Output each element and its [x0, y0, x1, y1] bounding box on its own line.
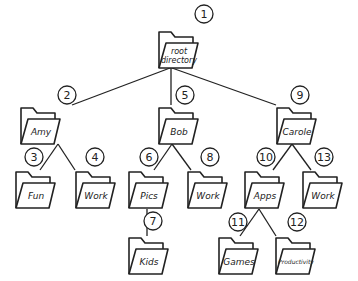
- node-number-badge: 9: [291, 86, 309, 104]
- svg-text:6: 6: [146, 151, 153, 164]
- svg-text:11: 11: [231, 216, 245, 229]
- svg-text:13: 13: [317, 151, 331, 164]
- node-number-badge: 11: [229, 213, 247, 231]
- svg-text:1: 1: [201, 8, 208, 21]
- folder-node[interactable]: Work8: [188, 148, 227, 208]
- tree-edge: [172, 144, 191, 170]
- directory-tree-diagram: rootdirectory1Amy2Fun3Work4Bob5Pics6Kids…: [0, 0, 358, 281]
- folder-node[interactable]: Work13: [303, 148, 342, 208]
- tree-edge: [259, 209, 276, 236]
- folder-label: Amy: [30, 127, 52, 137]
- folder-label: Games: [223, 257, 255, 267]
- svg-text:9: 9: [297, 89, 304, 102]
- node-number-badge: 8: [201, 148, 219, 166]
- svg-text:8: 8: [207, 151, 214, 164]
- folder-label: Work: [84, 191, 108, 201]
- folder-label: Kids: [140, 257, 159, 267]
- svg-text:2: 2: [64, 89, 71, 102]
- node-number-badge: 3: [25, 148, 43, 166]
- folder-node[interactable]: Work4: [76, 148, 115, 208]
- folder-label: Productivity: [278, 258, 314, 266]
- svg-text:5: 5: [182, 89, 189, 102]
- folder-node[interactable]: Apps10: [245, 148, 284, 208]
- folder-label: directory: [161, 56, 197, 65]
- tree-edge: [292, 144, 311, 170]
- folder-node[interactable]: Pics6: [129, 148, 168, 208]
- node-number-badge: 13: [315, 148, 333, 166]
- folder-node[interactable]: Carole9: [277, 86, 316, 144]
- folder-node[interactable]: Games11: [219, 213, 258, 274]
- tree-edge: [72, 68, 170, 105]
- node-number-badge: 2: [58, 86, 76, 104]
- node-number-badge: 5: [176, 86, 194, 104]
- folder-node[interactable]: rootdirectory1: [159, 5, 213, 68]
- tree-edge: [58, 144, 75, 170]
- folder-node[interactable]: Bob5: [159, 86, 198, 144]
- folder-label: Work: [196, 191, 220, 201]
- folder-node[interactable]: Productivity12: [276, 213, 315, 274]
- svg-text:10: 10: [259, 151, 273, 164]
- folder-label: Fun: [28, 191, 45, 201]
- svg-text:4: 4: [92, 151, 99, 164]
- svg-text:12: 12: [290, 216, 304, 229]
- folder-label: root: [171, 47, 188, 56]
- tree-nodes: rootdirectory1Amy2Fun3Work4Bob5Pics6Kids…: [16, 5, 342, 274]
- folder-label: Carole: [282, 127, 312, 137]
- folder-node[interactable]: Amy2: [21, 86, 76, 144]
- svg-text:3: 3: [31, 151, 38, 164]
- node-number-badge: 10: [257, 148, 275, 166]
- folder-node[interactable]: Kids7: [129, 212, 168, 274]
- node-number-badge: 7: [144, 212, 162, 230]
- tree-canvas: rootdirectory1Amy2Fun3Work4Bob5Pics6Kids…: [0, 0, 358, 281]
- node-number-badge: 6: [140, 148, 158, 166]
- folder-label: Bob: [170, 127, 188, 137]
- folder-label: Apps: [253, 191, 277, 201]
- node-number-badge: 12: [288, 213, 306, 231]
- folder-label: Pics: [140, 191, 158, 201]
- tree-edge: [273, 144, 292, 170]
- folder-label: Work: [311, 191, 335, 201]
- svg-text:7: 7: [150, 215, 157, 228]
- node-number-badge: 1: [195, 5, 213, 23]
- node-number-badge: 4: [86, 148, 104, 166]
